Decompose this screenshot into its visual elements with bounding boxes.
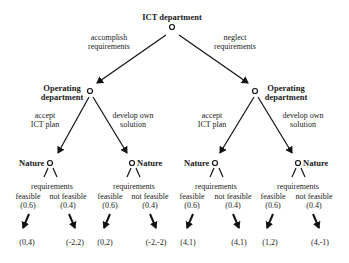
operating-dept-right-label: Operatingdepartment bbox=[265, 84, 308, 102]
payoff-7: (1,2) bbox=[262, 238, 277, 247]
payoff-1: (0,4) bbox=[19, 238, 34, 247]
feasible-3: feasible(0.6) bbox=[180, 192, 205, 210]
payoff-6: (4,1) bbox=[231, 238, 246, 247]
branch-develop-left: develop ownsolution bbox=[112, 111, 153, 129]
nature-label-4: Nature bbox=[303, 159, 328, 168]
payoff-3: (0,2) bbox=[97, 238, 112, 247]
branch-accept-left: acceptICT plan bbox=[31, 111, 60, 129]
payoff-4: (-2,-2) bbox=[146, 238, 167, 247]
nature-label-3: Nature bbox=[184, 159, 209, 168]
feasible-4: feasible(0.6) bbox=[261, 192, 286, 210]
branch-develop-right: develop ownsolution bbox=[282, 111, 323, 129]
nature-label-1: Nature bbox=[19, 159, 44, 168]
branch-neglect: neglectrequirements bbox=[214, 33, 256, 51]
branch-accept-right: acceptICT plan bbox=[198, 111, 227, 129]
payoff-2: (-2,2) bbox=[66, 238, 84, 247]
payoff-8: (4,-1) bbox=[311, 238, 329, 247]
not-feasible-2: not feasible(0.4) bbox=[131, 192, 168, 210]
operating-dept-left-label: Operatingdepartment bbox=[41, 84, 84, 102]
not-feasible-3: not feasible(0.4) bbox=[214, 192, 251, 210]
tree-edges bbox=[0, 0, 349, 263]
feasible-1: feasible(0.6) bbox=[16, 192, 41, 210]
req-label-1: requirements bbox=[31, 182, 73, 191]
root-label: ICT department bbox=[142, 13, 202, 22]
req-label-4: requirements bbox=[277, 182, 319, 191]
root-node bbox=[170, 25, 175, 30]
nature-label-2: Nature bbox=[137, 159, 162, 168]
branch-accomplish: accomplishrequirements bbox=[88, 33, 130, 51]
payoff-5: (4,1) bbox=[180, 238, 195, 247]
feasible-2: feasible(0.6) bbox=[98, 192, 123, 210]
req-label-2: requirements bbox=[113, 182, 155, 191]
req-label-3: requirements bbox=[195, 182, 237, 191]
not-feasible-1: not feasible(0.4) bbox=[49, 192, 86, 210]
not-feasible-4: not feasible(0.4) bbox=[295, 192, 332, 210]
